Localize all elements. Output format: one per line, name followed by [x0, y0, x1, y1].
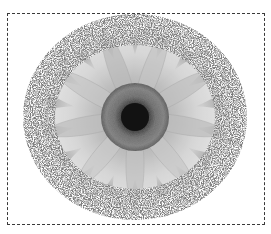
spatter-ring	[7, 13, 265, 225]
image-canvas[interactable]	[7, 13, 265, 225]
flower-image	[7, 13, 265, 225]
cut-off-caption: · ·· ··· ·· · ····· · ·· ·· ·	[0, 0, 271, 4]
